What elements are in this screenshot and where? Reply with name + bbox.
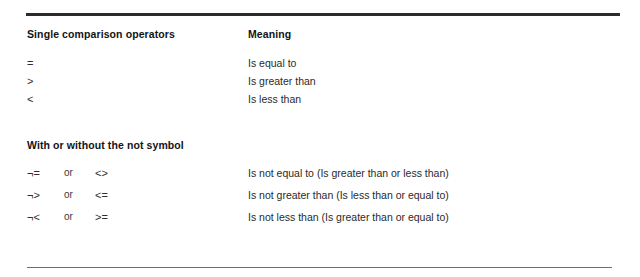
operator-meaning: Is not equal to (Is greater than or less… — [248, 167, 449, 179]
document-page: Single comparison operators Meaning = Is… — [0, 0, 640, 277]
operator-meaning: Is equal to — [248, 57, 296, 69]
operator-conjunction: or — [64, 167, 73, 179]
operator-symbol-not: ¬< — [27, 211, 40, 223]
operator-conjunction: or — [64, 189, 73, 201]
operator-symbol-alternate: <> — [95, 167, 108, 179]
operator-symbol: < — [27, 93, 33, 105]
operator-symbol: = — [27, 57, 33, 69]
operator-symbol-not: ¬= — [27, 167, 40, 179]
column-heading-meaning: Meaning — [248, 28, 291, 40]
operator-conjunction: or — [64, 211, 73, 223]
operator-meaning: Is not less than (Is greater than or equ… — [248, 211, 449, 223]
section-heading-single-comparison-operators: Single comparison operators — [27, 28, 175, 40]
operator-symbol-alternate: <= — [95, 189, 108, 201]
operator-symbol: > — [27, 75, 33, 87]
operator-symbol-not: ¬> — [27, 189, 40, 201]
section-heading-with-or-without-not-symbol: With or without the not symbol — [27, 139, 184, 151]
operator-meaning: Is less than — [248, 93, 301, 105]
operator-symbol-alternate: >= — [95, 211, 108, 223]
bottom-horizontal-rule — [27, 267, 612, 268]
operator-meaning: Is greater than — [248, 75, 316, 87]
top-horizontal-rule — [26, 13, 620, 16]
operator-meaning: Is not greater than (Is less than or equ… — [248, 189, 449, 201]
